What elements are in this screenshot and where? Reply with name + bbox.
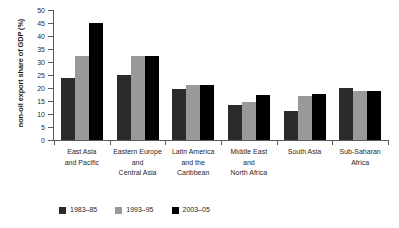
y-tick-label: 5 xyxy=(31,124,45,131)
x-tick xyxy=(221,140,222,145)
y-tick-label-text: 0 xyxy=(32,137,45,144)
bar-group xyxy=(284,10,326,140)
bar-group xyxy=(117,10,159,140)
x-tick xyxy=(388,140,389,145)
legend-swatch-icon xyxy=(59,207,66,214)
bar xyxy=(367,91,381,140)
bar xyxy=(298,96,312,140)
y-tick-label: 0 xyxy=(31,137,45,144)
bar xyxy=(200,85,214,140)
legend-label: 2003–05 xyxy=(183,206,210,214)
bar xyxy=(284,111,298,140)
bar xyxy=(353,91,367,140)
bar xyxy=(312,94,326,140)
legend-label: 1993–95 xyxy=(126,206,153,214)
x-category-label: South Asia xyxy=(277,147,333,158)
chart-legend: 1983–851993–952003–05 xyxy=(59,206,210,214)
bar-chart: non-oil export share of GDP (%) 05101520… xyxy=(0,0,399,228)
y-tick xyxy=(48,49,53,50)
y-tick-label: 20 xyxy=(31,85,45,92)
bar-group xyxy=(339,10,381,140)
bar xyxy=(117,75,131,140)
bar xyxy=(242,102,256,140)
bar xyxy=(75,56,89,140)
y-tick xyxy=(48,140,53,141)
bar-group xyxy=(172,10,214,140)
legend-label: 1983–85 xyxy=(70,206,97,214)
y-tick xyxy=(48,88,53,89)
y-tick-label: 10 xyxy=(31,111,45,118)
y-tick-label: 50 xyxy=(31,7,45,14)
y-tick xyxy=(48,62,53,63)
bar xyxy=(145,56,159,140)
y-tick-label: 40 xyxy=(31,33,45,40)
x-tick xyxy=(165,140,166,145)
y-tick-label: 30 xyxy=(31,59,45,66)
x-category-label: Latin America and the Caribbean xyxy=(165,147,221,179)
y-tick xyxy=(48,36,53,37)
y-tick xyxy=(48,114,53,115)
x-tick xyxy=(332,140,333,145)
y-tick-label-text: 50 xyxy=(32,7,45,14)
bar xyxy=(61,78,75,140)
x-category-label: Eastern Europe and Central Asia xyxy=(110,147,166,179)
y-tick-label: 15 xyxy=(31,98,45,105)
x-tick xyxy=(110,140,111,145)
y-tick-label-text: 35 xyxy=(32,46,45,53)
legend-item: 1993–95 xyxy=(115,206,153,214)
y-tick-label-text: 40 xyxy=(32,33,45,40)
legend-swatch-icon xyxy=(172,207,179,214)
y-tick-label: 25 xyxy=(31,72,45,79)
bar-group xyxy=(228,10,270,140)
y-tick-label-text: 20 xyxy=(32,85,45,92)
legend-item: 2003–05 xyxy=(172,206,210,214)
bar xyxy=(131,56,145,140)
y-tick-label: 35 xyxy=(31,46,45,53)
legend-swatch-icon xyxy=(115,207,122,214)
y-tick-label-text: 30 xyxy=(32,59,45,66)
x-tick xyxy=(54,140,55,145)
y-tick xyxy=(48,23,53,24)
bar xyxy=(339,88,353,140)
x-category-label: Sub-Saharan Africa xyxy=(332,147,388,168)
y-tick xyxy=(48,10,53,11)
x-category-label: Middle East and North Africa xyxy=(221,147,277,179)
y-axis-line xyxy=(53,10,54,141)
y-tick-label: 45 xyxy=(31,20,45,27)
x-category-label: East Asia and Pacific xyxy=(54,147,110,168)
y-tick xyxy=(48,101,53,102)
y-axis-title: non-oil export share of GDP (%) xyxy=(13,0,29,146)
bar-group xyxy=(61,10,103,140)
y-tick-label-text: 45 xyxy=(32,20,45,27)
y-tick-label-text: 5 xyxy=(32,124,45,131)
y-tick-label-text: 15 xyxy=(32,98,45,105)
bar xyxy=(256,95,270,140)
bar xyxy=(228,105,242,140)
bar xyxy=(172,89,186,140)
y-tick xyxy=(48,127,53,128)
y-tick xyxy=(48,75,53,76)
y-tick-label-text: 25 xyxy=(32,72,45,79)
y-tick-label-text: 10 xyxy=(32,111,45,118)
legend-item: 1983–85 xyxy=(59,206,97,214)
bar xyxy=(186,85,200,140)
x-tick xyxy=(277,140,278,145)
bar xyxy=(89,23,103,140)
